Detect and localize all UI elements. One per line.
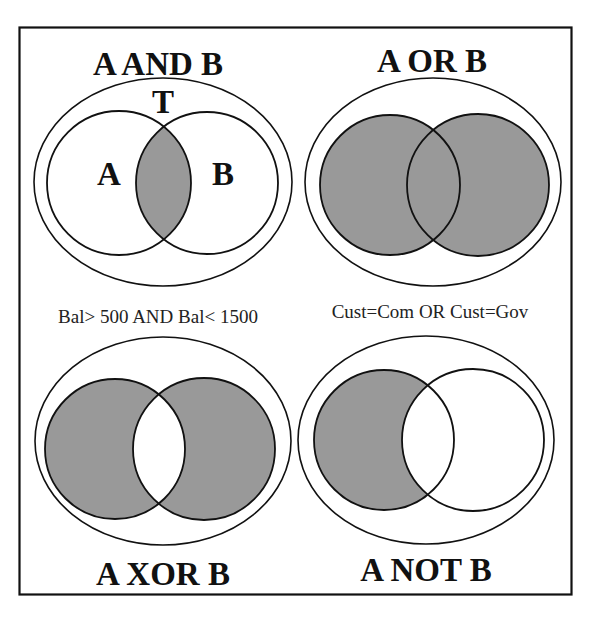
universe-label: T	[152, 84, 174, 120]
panel-not: A NOT B	[298, 336, 554, 588]
venn-diagram-figure: A AND B T A B Bal> 500 AND Bal< 1500 A O…	[0, 0, 590, 619]
panel-title-or: A OR B	[377, 43, 487, 79]
panel-title-and: A AND B	[93, 46, 223, 82]
panel-caption-and: Bal> 500 AND Bal< 1500	[58, 306, 258, 327]
panel-and: A AND B T A B Bal> 500 AND Bal< 1500	[34, 46, 292, 327]
panel-or: A OR B Cust=Com OR Cust=Gov	[305, 43, 561, 322]
panel-title-not: A NOT B	[360, 552, 491, 588]
set-b-label: B	[212, 156, 234, 192]
set-a-label: A	[97, 156, 121, 192]
panel-xor: A XOR B	[35, 337, 291, 592]
panel-title-xor: A XOR B	[96, 556, 230, 592]
panel-caption-or: Cust=Com OR Cust=Gov	[332, 301, 529, 322]
